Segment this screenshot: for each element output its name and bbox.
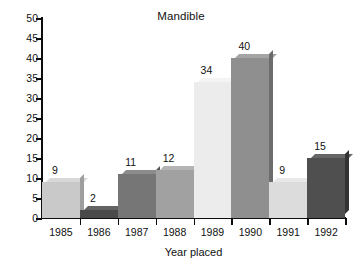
x-tick-mark (269, 218, 271, 225)
bar-value-label: 2 (74, 193, 112, 204)
bar[interactable] (80, 210, 118, 218)
x-axis-title: Year placed (42, 246, 345, 258)
x-tick-mark (345, 218, 347, 225)
y-tick-label: 40 (26, 53, 38, 64)
x-tick-label: 1985 (42, 226, 80, 238)
y-tick-label: 50 (26, 13, 38, 24)
x-tick-mark (194, 218, 196, 225)
y-tick-label: 15 (26, 153, 38, 164)
bar-front-face (231, 58, 269, 218)
bar-front-face (118, 174, 156, 218)
bar[interactable] (118, 174, 156, 218)
plot-area: 05101520253035404550 9211123440915 19851… (42, 18, 345, 218)
bar-chart: Mandible 05101520253035404550 9211123440… (0, 0, 362, 265)
bar[interactable] (194, 82, 232, 218)
x-tick-mark (118, 218, 120, 225)
bar[interactable] (156, 170, 194, 218)
bar-value-label: 15 (301, 141, 339, 152)
y-tick-label: 25 (26, 113, 38, 124)
y-tick-label: 45 (26, 33, 38, 44)
x-tick-label: 1990 (231, 226, 269, 238)
y-tick-label: 5 (32, 193, 38, 204)
x-tick-label: 1989 (194, 226, 232, 238)
bar-value-label: 34 (188, 65, 226, 76)
bar-value-label: 9 (36, 165, 74, 176)
bar-front-face (194, 82, 232, 218)
bar-front-face (307, 158, 345, 218)
y-tick-label: 35 (26, 73, 38, 84)
x-tick-label: 1986 (80, 226, 118, 238)
x-tick-label: 1992 (307, 226, 345, 238)
bar-front-face (269, 182, 307, 218)
x-tick-label: 1988 (156, 226, 194, 238)
bar-front-face (156, 170, 194, 218)
bar-value-label: 11 (112, 157, 150, 168)
bar-value-label: 9 (263, 165, 301, 176)
bar-value-label: 12 (150, 153, 188, 164)
y-tick-label: 0 (32, 213, 38, 224)
x-tick-label: 1987 (118, 226, 156, 238)
x-tick-mark (307, 218, 309, 225)
x-tick-label: 1991 (269, 226, 307, 238)
bar-front-face (80, 210, 118, 218)
bar-side-face (345, 150, 349, 214)
bar[interactable] (269, 182, 307, 218)
x-tick-mark (80, 218, 82, 225)
bar[interactable] (231, 58, 269, 218)
y-tick-label: 20 (26, 133, 38, 144)
bar-value-label: 40 (225, 41, 263, 52)
x-tick-mark (231, 218, 233, 225)
y-tick-label: 30 (26, 93, 38, 104)
x-tick-mark (156, 218, 158, 225)
bar[interactable] (307, 158, 345, 218)
